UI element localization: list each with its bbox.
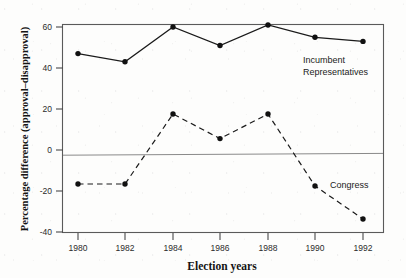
data-point <box>217 43 222 48</box>
y-tick-label-neg20: -20 <box>40 186 53 196</box>
data-point <box>360 216 365 221</box>
x-tick-label-1990: 1990 <box>306 243 325 253</box>
y-tick-label-60: 60 <box>43 22 53 32</box>
x-tick-label-1988: 1988 <box>259 243 278 253</box>
x-axis-ticks <box>78 233 363 240</box>
annotation-incumbent-line1: Incumbent <box>303 55 346 65</box>
x-tick-label-1992: 1992 <box>354 243 373 253</box>
data-point <box>265 22 270 27</box>
x-axis-title: Election years <box>187 260 257 273</box>
data-point <box>312 35 317 40</box>
data-point <box>170 24 175 29</box>
chart-figure: 60 40 20 0 -20 -40 1980 1982 1984 1986 1… <box>0 0 406 278</box>
annotation-congress: Congress <box>330 180 369 190</box>
series-congress-line <box>78 114 363 219</box>
data-point <box>122 59 127 64</box>
series-congress <box>75 111 365 221</box>
y-tick-label-0: 0 <box>47 145 52 155</box>
x-tick-label-1984: 1984 <box>164 243 183 253</box>
annotation-incumbent-line2: Representatives <box>303 67 369 77</box>
y-axis-title: Percentage difference (approval–disappro… <box>19 26 31 231</box>
y-tick-label-neg40: -40 <box>40 227 53 237</box>
data-point <box>312 183 317 188</box>
data-point <box>360 39 365 44</box>
data-point <box>170 111 175 116</box>
zero-reference-line <box>63 153 383 155</box>
data-point <box>75 51 80 56</box>
data-point <box>265 111 270 116</box>
x-tick-label-1986: 1986 <box>211 243 230 253</box>
data-point <box>75 181 80 186</box>
data-point <box>217 136 222 141</box>
x-tick-label-1982: 1982 <box>116 243 135 253</box>
data-point <box>122 181 127 186</box>
line-chart-plot: 60 40 20 0 -20 -40 1980 1982 1984 1986 1… <box>0 0 406 278</box>
y-tick-label-20: 20 <box>43 104 53 114</box>
x-tick-label-1980: 1980 <box>69 243 88 253</box>
y-tick-label-40: 40 <box>43 63 53 73</box>
